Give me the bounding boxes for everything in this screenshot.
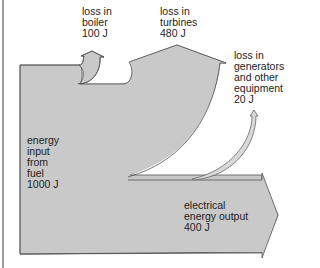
turbine-loss-label: loss in turbines 480 J [160,6,197,39]
boiler-loss-label: loss in boiler 100 J [82,6,112,39]
electrical-output-label: electrical energy output 400 J [184,200,248,233]
energy-input-label: energy input from fuel 1000 J [27,135,59,190]
main-flow-shape [20,54,88,65]
generator-loss-label: loss in generators and other equipment 2… [234,50,284,105]
